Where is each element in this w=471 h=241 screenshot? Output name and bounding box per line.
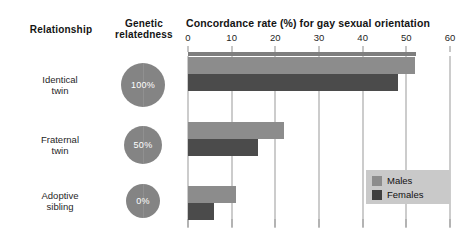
bottom-tick-50 xyxy=(406,219,407,228)
row-label-line-2: twin xyxy=(12,145,108,156)
row-label-line-1: Adoptive xyxy=(12,190,108,201)
bar-adoptive-sibling-males xyxy=(188,186,236,203)
legend-item-females: Females xyxy=(372,188,450,201)
row-label-fraternal-twin: Fraternal twin xyxy=(12,134,108,156)
x-tick-label-0: 0 xyxy=(185,32,190,43)
relatedness-circle-adoptive-sibling: 0% xyxy=(126,184,160,218)
x-tick-mark-50 xyxy=(406,46,407,52)
row-label-line-2: twin xyxy=(12,85,108,96)
row-label-line-1: Identical xyxy=(12,74,108,85)
x-tick-label-30: 30 xyxy=(314,32,325,43)
row-label-identical-twin: Identical twin xyxy=(12,74,108,96)
bottom-tick-30 xyxy=(319,219,320,228)
bar-identical-twin-females xyxy=(188,74,398,91)
relatedness-value: 100% xyxy=(131,80,155,90)
x-tick-mark-20 xyxy=(275,46,276,52)
bottom-tick-60 xyxy=(450,219,451,228)
x-tick-label-60: 60 xyxy=(445,32,456,43)
bottom-tick-20 xyxy=(275,219,276,228)
relatedness-value: 0% xyxy=(136,196,150,206)
bar-fraternal-twin-females xyxy=(188,139,258,156)
x-tick-label-50: 50 xyxy=(401,32,412,43)
bottom-tick-10 xyxy=(231,219,232,228)
legend-item-males: Males xyxy=(372,174,450,187)
legend-swatch-males-icon xyxy=(372,176,382,186)
row-label-line-2: sibling xyxy=(12,201,108,212)
x-tick-mark-10 xyxy=(231,46,232,52)
legend-label-males: Males xyxy=(387,176,412,186)
relatedness-circle-identical-twin: 100% xyxy=(121,63,165,107)
legend-swatch-females-icon xyxy=(372,190,382,200)
chart-figure: Relationship Genetic relatedness Concord… xyxy=(0,0,471,241)
x-tick-label-20: 20 xyxy=(270,32,281,43)
chart-title: Concordance rate (%) for gay sexual orie… xyxy=(186,17,464,29)
x-tick-mark-60 xyxy=(450,46,451,52)
legend-label-females: Females xyxy=(387,190,423,200)
row-label-adoptive-sibling: Adoptive sibling xyxy=(12,190,108,212)
x-tick-label-10: 10 xyxy=(226,32,237,43)
column-header-genetic-relatedness: Genetic relatedness xyxy=(110,18,178,40)
row-label-line-1: Fraternal xyxy=(12,134,108,145)
chart-legend: Males Females xyxy=(366,170,450,204)
column-header-relationship: Relationship xyxy=(14,24,108,35)
relatedness-circle-fraternal-twin: 50% xyxy=(124,126,162,164)
x-tick-mark-0 xyxy=(188,46,189,52)
x-tick-mark-30 xyxy=(319,46,320,52)
bar-adoptive-sibling-females xyxy=(188,203,214,220)
relatedness-value: 50% xyxy=(134,140,153,150)
bar-identical-twin-males xyxy=(188,57,415,74)
bottom-tick-0 xyxy=(188,219,189,228)
bar-fraternal-twin-males xyxy=(188,122,284,139)
bottom-tick-40 xyxy=(362,219,363,228)
x-tick-mark-40 xyxy=(362,46,363,52)
x-axis-line xyxy=(188,52,416,56)
x-tick-label-40: 40 xyxy=(357,32,368,43)
